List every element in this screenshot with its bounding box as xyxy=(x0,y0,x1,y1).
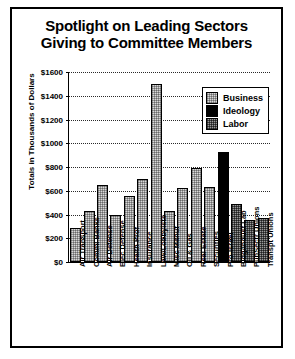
y-axis-title: Totals in Thousands of Dollars xyxy=(27,67,36,197)
legend-item[interactable]: Business xyxy=(206,91,263,104)
y-tick-label: $1600 xyxy=(41,68,63,77)
x-label-slot: Air Defense xyxy=(95,265,108,349)
y-tick-label: $600 xyxy=(45,186,63,195)
x-axis-tick-label: Pro-Israel xyxy=(226,232,235,267)
x-label-slot: Oil & Gas xyxy=(175,265,188,349)
chart-title-line-2: Giving to Committee Members xyxy=(12,34,281,51)
x-label-slot: Comml Banks xyxy=(81,265,94,349)
x-label-slot: Law/Lobbyists xyxy=(148,265,161,349)
x-axis-labels: Air TransportComml BanksAir DefenseElec … xyxy=(68,265,269,349)
legend-item[interactable]: Labor xyxy=(206,117,263,130)
x-axis-tick-label: Comml Banks xyxy=(92,217,101,267)
x-axis-tick-label: PubSectr Unions xyxy=(252,207,261,267)
x-label-slot: Bldg/Indust Lab xyxy=(229,265,242,349)
legend-label: Ideology xyxy=(223,106,260,116)
legend-label: Labor xyxy=(223,119,248,129)
x-label-slot: Insurance xyxy=(135,265,148,349)
page-title: Spotlight on Leading Sectors Giving to C… xyxy=(12,17,281,51)
x-label-slot: Air Transport xyxy=(68,265,81,349)
legend-item[interactable]: Ideology xyxy=(206,104,263,117)
chart-title-line-1: Spotlight on Leading Sectors xyxy=(12,17,281,34)
x-label-slot: Health Prof xyxy=(122,265,135,349)
x-axis-tick-label: Securities xyxy=(212,231,221,267)
x-axis-tick-label: Oil & Gas xyxy=(185,233,194,267)
y-tick-label: $1000 xyxy=(41,139,63,148)
legend-swatch xyxy=(206,118,218,130)
y-tick-label: $400 xyxy=(45,210,63,219)
x-axis-tick-label: Elec Defense xyxy=(118,220,127,267)
y-tick-label: $1400 xyxy=(41,91,63,100)
x-axis-tick-label: Transpt Unions xyxy=(266,212,275,267)
x-label-slot: Pro-Israel xyxy=(215,265,228,349)
y-tick-mark xyxy=(66,262,69,263)
y-tick-label: $1200 xyxy=(41,115,63,124)
x-label-slot: Elec Defense xyxy=(108,265,121,349)
chart-frame: Spotlight on Leading Sectors Giving to C… xyxy=(10,7,283,348)
x-axis-tick-label: Air Transport xyxy=(78,220,87,267)
x-label-slot: Real Estate xyxy=(189,265,202,349)
x-axis-tick-label: Health Prof xyxy=(132,227,141,267)
x-axis-tick-label: Law/Lobbyists xyxy=(159,215,168,267)
y-tick-label: $200 xyxy=(45,234,63,243)
y-tick-label: $0 xyxy=(54,258,63,267)
legend-swatch xyxy=(206,92,218,104)
x-label-slot: Misc Manuf xyxy=(162,265,175,349)
legend: BusinessIdeologyLabor xyxy=(202,87,269,134)
x-axis-tick-label: Air Defense xyxy=(105,225,114,267)
legend-swatch xyxy=(206,105,218,117)
x-axis-tick-label: Real Estate xyxy=(199,227,208,267)
x-label-slot: PubSectr Unions xyxy=(242,265,255,349)
x-label-slot: Transpt Unions xyxy=(256,265,269,349)
legend-label: Business xyxy=(223,93,263,103)
x-axis-tick-label: Misc Manuf xyxy=(172,226,181,267)
x-axis-tick-label: Insurance xyxy=(145,232,154,267)
y-tick-label: $800 xyxy=(45,163,63,172)
x-axis-tick-label: Bldg/Indust Lab xyxy=(239,210,248,267)
x-label-slot: Securities xyxy=(202,265,215,349)
